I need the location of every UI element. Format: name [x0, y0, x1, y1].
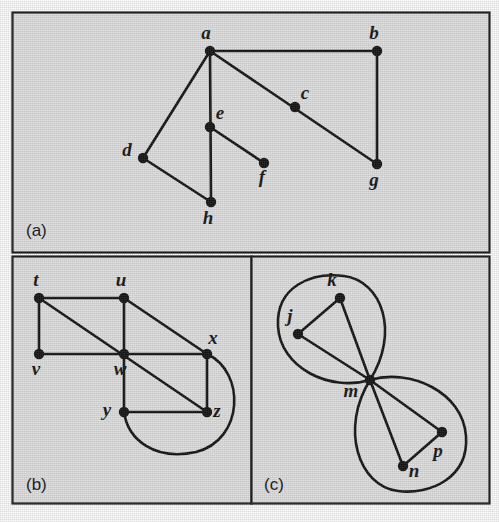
node-z[interactable] [202, 407, 212, 417]
node-label-c: c [301, 82, 310, 103]
node-y[interactable] [119, 407, 129, 417]
node-e[interactable] [205, 122, 215, 132]
node-g[interactable] [372, 159, 382, 169]
node-label-e: e [216, 102, 225, 123]
panel-b: tuvwxyz(b) [13, 257, 252, 504]
panel-frame-b [13, 257, 252, 504]
node-c[interactable] [290, 102, 300, 112]
node-label-m: m [344, 380, 359, 401]
panel-c: jkmnp(c) [252, 257, 490, 504]
node-label-k: k [327, 269, 337, 290]
node-h[interactable] [206, 197, 216, 207]
node-m[interactable] [365, 375, 375, 385]
node-label-d: d [122, 139, 132, 160]
node-k[interactable] [335, 293, 345, 303]
graph-diagram-canvas: abcdefgh(a)tuvwxyz(b)jkmnp(c) [0, 0, 499, 522]
panel-frame-a [13, 13, 490, 253]
node-label-y: y [101, 399, 112, 420]
node-label-v: v [32, 358, 41, 379]
node-j[interactable] [293, 329, 303, 339]
node-label-x: x [207, 327, 218, 348]
node-b[interactable] [372, 46, 382, 56]
node-t[interactable] [34, 293, 44, 303]
node-d[interactable] [138, 153, 148, 163]
node-label-u: u [116, 269, 127, 290]
node-label-z: z [212, 400, 221, 421]
node-n[interactable] [398, 461, 408, 471]
node-label-t: t [33, 269, 39, 290]
node-label-b: b [369, 22, 379, 43]
node-a[interactable] [205, 46, 215, 56]
node-label-h: h [203, 207, 214, 228]
node-p[interactable] [437, 427, 447, 437]
panel-a: abcdefgh(a) [13, 13, 490, 253]
panel-caption-b: (b) [26, 475, 47, 494]
node-label-w: w [114, 358, 127, 379]
node-label-g: g [368, 169, 379, 190]
node-label-a: a [201, 22, 211, 43]
node-u[interactable] [119, 293, 129, 303]
panel-caption-a: (a) [26, 221, 47, 240]
panel-caption-c: (c) [264, 475, 284, 494]
node-label-n: n [409, 460, 420, 481]
node-label-p: p [431, 440, 443, 461]
figure-container: abcdefgh(a)tuvwxyz(b)jkmnp(c) [0, 0, 499, 522]
node-x[interactable] [202, 349, 212, 359]
